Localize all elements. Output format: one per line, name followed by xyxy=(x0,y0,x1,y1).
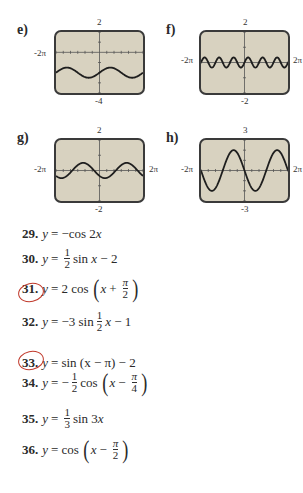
equals: = xyxy=(51,251,58,267)
x-min-label: -2π xyxy=(34,164,46,174)
x-max-label: 2π xyxy=(293,55,302,65)
graph-screen xyxy=(54,138,145,203)
left-paren: ( xyxy=(93,279,99,299)
left-paren: ( xyxy=(102,373,108,393)
plus: + xyxy=(109,281,116,297)
graph-label: g) xyxy=(17,130,29,146)
denominator: 2 xyxy=(123,289,129,300)
left-paren: ( xyxy=(83,440,89,460)
denominator: 3 xyxy=(64,419,70,430)
constant: − 1 xyxy=(114,314,131,330)
denominator: 2 xyxy=(72,383,78,394)
var-y: y xyxy=(42,411,48,427)
equals: = xyxy=(51,375,58,391)
equals: = xyxy=(51,355,58,371)
expression: −3 sin xyxy=(61,314,93,330)
problem-29: 29. y = −cos 2x xyxy=(22,226,102,242)
graph-screen xyxy=(199,138,290,203)
minus: − xyxy=(118,375,125,391)
denominator: 2 xyxy=(97,322,103,333)
problem-36: 36. y = cos ( x − π2 ) xyxy=(22,438,130,461)
y-min-label: -2 xyxy=(95,204,103,214)
problem-35: 35. y = 13 sin 3x xyxy=(22,407,104,430)
numerator: 1 xyxy=(64,407,70,418)
var-x: x xyxy=(91,251,97,267)
problem-30: 30. y = 12 sin x − 2 xyxy=(22,247,117,270)
x-min-label: -2π xyxy=(34,48,46,58)
graph-label: h) xyxy=(166,130,178,146)
graph-label: e) xyxy=(17,22,28,38)
equals: = xyxy=(51,226,58,242)
denominator: 2 xyxy=(64,259,70,270)
graph-plot xyxy=(201,32,288,93)
graph-plot xyxy=(56,140,143,201)
y-max-label: 2 xyxy=(97,17,102,27)
numerator: π xyxy=(113,438,119,449)
fraction: π2 xyxy=(113,438,119,461)
y-min-label: -2 xyxy=(241,96,249,106)
x-max-label: 2π xyxy=(149,164,158,174)
problem-number: 30. xyxy=(22,251,38,267)
var-x: x xyxy=(91,442,97,458)
var-x: x xyxy=(105,314,111,330)
graph-screen xyxy=(54,30,145,95)
y-min-label: -3 xyxy=(241,204,249,214)
right-paren: ) xyxy=(132,279,138,299)
problem-32: 32. y = −3 sin 12 x − 1 xyxy=(22,310,131,333)
var-y: y xyxy=(42,442,48,458)
problem-number: 34. xyxy=(22,375,38,391)
equals: = xyxy=(51,442,58,458)
func-sin: sin xyxy=(73,251,88,267)
numerator: 1 xyxy=(64,247,70,258)
numerator: 1 xyxy=(72,371,78,382)
x-min-label: -2π xyxy=(181,55,193,65)
fraction: π2 xyxy=(123,277,129,300)
y-max-label: 2 xyxy=(97,125,102,135)
problem-number: 32. xyxy=(22,314,38,330)
y-max-label: 3 xyxy=(243,125,248,135)
equals: = xyxy=(51,281,58,297)
var-y: y xyxy=(42,314,48,330)
fraction: 12 xyxy=(64,247,70,270)
graph-plot xyxy=(56,32,143,93)
right-paren: ) xyxy=(141,373,147,393)
x-max-label: 2π xyxy=(293,164,302,174)
var-y: y xyxy=(42,226,48,242)
denominator: 4 xyxy=(132,383,138,394)
graph-plot xyxy=(201,140,288,201)
problem-number: 36. xyxy=(22,442,38,458)
right-paren: ) xyxy=(123,440,129,460)
problem-number: 29. xyxy=(22,226,38,242)
graph-label: f) xyxy=(166,22,175,38)
numerator: π xyxy=(132,371,138,382)
var-x: x xyxy=(100,281,106,297)
var-y: y xyxy=(42,251,48,267)
var-x: x xyxy=(109,375,115,391)
numerator: 1 xyxy=(97,310,103,321)
func-cos: cos xyxy=(61,442,78,458)
var-y: y xyxy=(42,375,48,391)
fraction: 12 xyxy=(72,371,78,394)
expression: sin (x − π) − 2 xyxy=(61,355,135,371)
expression: −cos 2 xyxy=(61,226,95,242)
x-min-label: -2π xyxy=(181,164,193,174)
y-max-label: 2 xyxy=(243,17,248,27)
negative-sign: − xyxy=(61,375,68,391)
denominator: 2 xyxy=(113,450,119,461)
fraction: π4 xyxy=(132,371,138,394)
problem-34: 34. y = − 12 cos ( x − π4 ) xyxy=(22,371,149,394)
minus: − xyxy=(99,442,106,458)
numerator: π xyxy=(123,277,129,288)
func-cos: cos xyxy=(80,375,97,391)
expression: 2 cos xyxy=(61,281,88,297)
expression: sin 3 xyxy=(73,411,98,427)
equals: = xyxy=(51,411,58,427)
graph-screen xyxy=(199,30,290,95)
var-x: x xyxy=(96,226,102,242)
fraction: 13 xyxy=(64,407,70,430)
equals: = xyxy=(51,314,58,330)
fraction: 12 xyxy=(97,310,103,333)
constant: − 2 xyxy=(100,251,117,267)
problem-number: 35. xyxy=(22,411,38,427)
y-min-label: -4 xyxy=(95,96,103,106)
